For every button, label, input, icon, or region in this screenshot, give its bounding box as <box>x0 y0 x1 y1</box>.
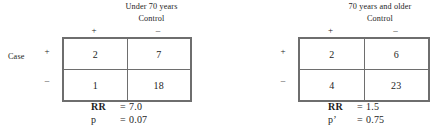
statistic-p-value: 0.07 <box>129 113 161 126</box>
control-axis-label: Control <box>219 14 437 23</box>
row-sign-minus: – <box>40 66 54 95</box>
cell-case-minus-control-minus: 23 <box>364 70 429 101</box>
statistic-p: p’ = 0.75 <box>298 113 428 126</box>
contingency-table: 2 7 1 18 <box>62 37 192 102</box>
statistic-p-key: p <box>91 113 117 126</box>
stratified-contingency-figure: Under 70 years Control + – Case + – 2 7 … <box>0 0 437 133</box>
statistic-rr-key: RR <box>328 100 354 113</box>
statistic-p-equals: = <box>354 113 366 126</box>
table-row: 1 18 <box>64 70 191 101</box>
cell-case-minus-control-plus: 4 <box>300 70 365 101</box>
cell-case-plus-control-minus: 6 <box>364 39 429 70</box>
statistics-block: RR = 7.0 p = 0.07 <box>62 100 190 126</box>
column-sign-minus: – <box>363 25 428 36</box>
column-sign-minus: – <box>126 25 190 36</box>
column-sign-headers: + – <box>62 25 190 36</box>
statistic-rr: RR = 1.5 <box>298 100 428 113</box>
stratum-title: 70 years and older <box>219 2 437 11</box>
table-row: 2 7 <box>64 39 191 70</box>
cell-case-minus-control-minus: 18 <box>127 70 191 101</box>
statistic-rr-value: 1.5 <box>366 100 398 113</box>
column-sign-headers: + – <box>298 25 428 36</box>
row-sign-markers: + – <box>276 37 290 95</box>
case-axis-label: Case <box>8 52 25 61</box>
cell-case-plus-control-minus: 7 <box>127 39 191 70</box>
statistic-p-equals: = <box>117 113 129 126</box>
column-sign-plus: + <box>298 25 363 36</box>
statistic-rr-equals: = <box>117 100 129 113</box>
table-row: 2 6 <box>300 39 429 70</box>
row-sign-plus: + <box>276 37 290 66</box>
table-row: 4 23 <box>300 70 429 101</box>
row-sign-markers: + – <box>40 37 54 95</box>
statistic-p: p = 0.07 <box>62 113 190 126</box>
cell-case-minus-control-plus: 1 <box>64 70 128 101</box>
statistic-rr: RR = 7.0 <box>62 100 190 113</box>
statistic-rr-equals: = <box>354 100 366 113</box>
statistic-rr-value: 7.0 <box>129 100 161 113</box>
statistic-p-key: p’ <box>328 113 354 126</box>
statistic-p-value: 0.75 <box>366 113 398 126</box>
panel-70-and-older: 70 years and older Control + – + – 2 6 4… <box>219 0 437 133</box>
cell-case-plus-control-plus: 2 <box>300 39 365 70</box>
statistic-rr-key: RR <box>91 100 117 113</box>
contingency-table: 2 6 4 23 <box>298 37 430 102</box>
cell-case-plus-control-plus: 2 <box>64 39 128 70</box>
row-sign-minus: – <box>276 66 290 95</box>
row-sign-plus: + <box>40 37 54 66</box>
panel-under-70: Under 70 years Control + – Case + – 2 7 … <box>0 0 219 133</box>
statistics-block: RR = 1.5 p’ = 0.75 <box>298 100 428 126</box>
column-sign-plus: + <box>62 25 126 36</box>
